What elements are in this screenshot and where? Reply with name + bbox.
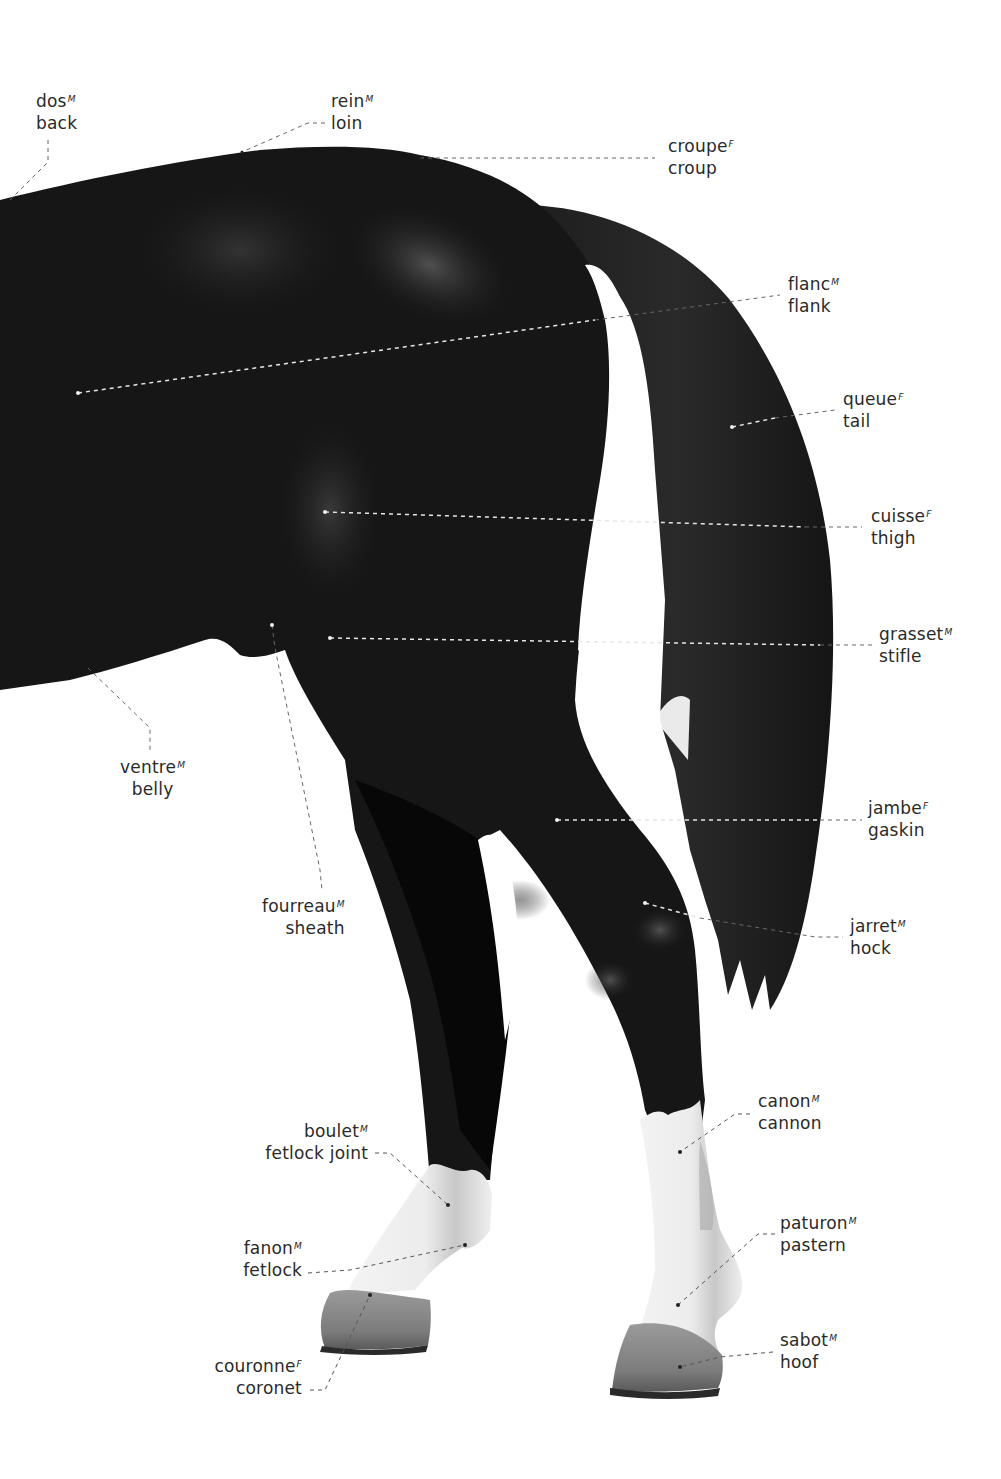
label-loin: reinM loin xyxy=(331,90,373,134)
label-cannon: canonM cannon xyxy=(758,1090,822,1134)
label-croup: croupeF croup xyxy=(668,135,734,179)
label-tail: queueF tail xyxy=(843,388,904,432)
label-back: dosM back xyxy=(36,90,77,134)
label-coronet: couronneF coronet xyxy=(206,1355,302,1399)
label-en: back xyxy=(36,112,77,134)
far-hoof xyxy=(321,1290,431,1349)
horse-hindquarters-illustration xyxy=(0,0,1001,1479)
label-belly: ventreM belly xyxy=(120,756,185,800)
label-fr: dosM xyxy=(36,90,77,112)
label-fetlock-joint: bouletM fetlock joint xyxy=(240,1120,368,1164)
far-leg-white xyxy=(345,1164,492,1295)
label-stifle: grassetM stifle xyxy=(879,623,952,667)
label-thigh: cuisseF thigh xyxy=(871,505,932,549)
label-hoof: sabotM hoof xyxy=(780,1329,837,1373)
near-leg-white xyxy=(630,1100,742,1358)
label-sheath: fourreauM sheath xyxy=(262,895,345,939)
label-hock: jarretM hock xyxy=(850,915,906,959)
label-pastern: paturonM pastern xyxy=(780,1212,857,1256)
label-gaskin: jambeF gaskin xyxy=(868,797,928,841)
label-fetlock: fanonM fetlock xyxy=(232,1237,302,1281)
label-flank: flancM flank xyxy=(788,273,839,317)
